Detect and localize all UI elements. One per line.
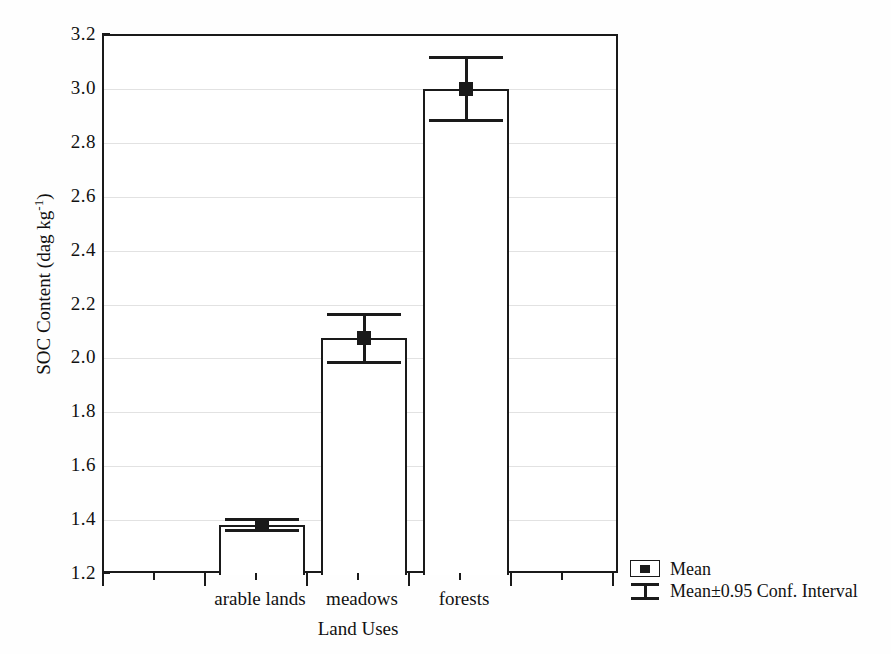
y-axis-tick-label: 1.2 [36, 563, 96, 582]
legend-label-mean: Mean [670, 559, 711, 580]
plot-area [102, 34, 618, 573]
mean-marker [459, 82, 473, 96]
y-axis-tick-label: 2.4 [36, 240, 96, 259]
mean-marker [255, 518, 269, 532]
y-axis-tick-label: 3.2 [36, 24, 96, 43]
y-axis-tick-label: 1.8 [36, 401, 96, 420]
bar-arable-lands [219, 525, 305, 575]
gridline [104, 143, 616, 144]
y-axis-tick-label: 2.0 [36, 347, 96, 366]
x-axis-tick-major [204, 573, 206, 586]
x-axis-tick-major [102, 573, 104, 586]
legend-label-confidence-interval: Mean±0.95 Conf. Interval [670, 581, 858, 602]
y-axis-tick-label: 3.0 [36, 78, 96, 97]
y-axis-tick-label: 1.4 [36, 509, 96, 528]
x-axis-tick-minor [357, 573, 359, 580]
bar-forests [423, 89, 509, 575]
error-bar-cap-upper [429, 56, 503, 59]
x-axis-tick-label-forests: forests [384, 588, 544, 610]
x-axis-title: Land Uses [258, 618, 458, 640]
legend-item-mean: Mean [628, 558, 878, 580]
x-axis-tick-minor [153, 573, 155, 580]
error-bar-cap-lower [327, 361, 401, 364]
error-bar-cap-upper [327, 313, 401, 316]
gridline [104, 89, 616, 90]
error-bar-marker-icon [628, 581, 664, 601]
chart-figure: SOC Content (dag kg-1) 3.23.02.82.62.42.… [0, 0, 891, 654]
mean-marker [357, 331, 371, 345]
x-axis-tick-major [408, 573, 410, 586]
y-axis-tick-label: 1.6 [36, 455, 96, 474]
legend-item-confidence-interval: Mean±0.95 Conf. Interval [628, 580, 878, 602]
chart-legend: Mean Mean±0.95 Conf. Interval [628, 558, 878, 602]
x-axis-tick-major [306, 573, 308, 586]
y-axis-tick-label: 2.2 [36, 294, 96, 313]
x-axis-tick-minor [255, 573, 257, 580]
gridline [104, 251, 616, 252]
y-axis-tick-label: 2.8 [36, 132, 96, 151]
x-axis-tick-major [612, 573, 614, 586]
x-axis-tick-minor [561, 573, 563, 580]
error-bar-cap-lower [429, 119, 503, 122]
gridline [104, 305, 616, 306]
bar-meadows [321, 338, 407, 575]
y-axis-tick-label: 2.6 [36, 186, 96, 205]
filled-square-marker-icon [628, 559, 664, 579]
x-axis-tick-minor [459, 573, 461, 580]
x-axis-tick-major [510, 573, 512, 586]
gridline [104, 197, 616, 198]
